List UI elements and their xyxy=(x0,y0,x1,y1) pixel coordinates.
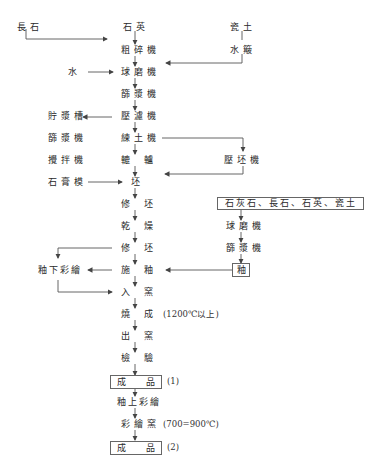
underglaze-painting: 釉下彩繪 xyxy=(38,265,82,276)
step-trim1-right: 坯 xyxy=(144,199,157,210)
input-feldspar: 長石 xyxy=(17,22,43,33)
product-2-tag: (2) xyxy=(167,442,179,453)
step-sieve: 篩漿機 xyxy=(121,89,160,100)
fire-temperature-note: (1200℃以上) xyxy=(163,309,219,320)
slurry-tank: 貯漿槽 xyxy=(48,111,87,122)
product-1-box: 成 品 xyxy=(110,375,162,389)
step-crusher: 粗碎機 xyxy=(121,45,160,56)
step-trim2-right: 坯 xyxy=(144,243,157,254)
step-dry-left: 乾 xyxy=(121,221,134,232)
flow-connectors xyxy=(0,0,382,474)
glaze-box: 釉 xyxy=(232,263,250,277)
sieve-machine-2: 篩漿機 xyxy=(48,133,87,144)
product-2-box: 成 品 xyxy=(110,441,162,455)
product-2-right: 品 xyxy=(146,443,155,454)
step-pug-mill: 練土機 xyxy=(121,133,160,144)
product-1-tag: (1) xyxy=(167,376,179,387)
product-2-left: 成 xyxy=(117,443,126,454)
step-kiln-in-right: 窯 xyxy=(144,287,157,298)
product-1-left: 成 xyxy=(117,377,126,388)
step-jigger-right: 轤 xyxy=(144,155,157,166)
step-inspect-left: 檢 xyxy=(121,353,134,364)
step-fire-left: 燒 xyxy=(121,309,134,320)
input-water: 水 xyxy=(68,67,81,78)
glaze-sieve: 篩漿機 xyxy=(226,243,265,254)
step-jigger-left: 轆 xyxy=(121,155,134,166)
step-trim1-left: 修 xyxy=(121,199,134,210)
step-kiln-out-right: 窯 xyxy=(144,331,157,342)
step-filter-press: 壓濾機 xyxy=(121,111,160,122)
step-kiln-out-left: 出 xyxy=(121,331,134,342)
input-clay: 瓷土 xyxy=(230,22,256,33)
glaze-label: 釉 xyxy=(237,265,246,276)
input-quartz: 石英 xyxy=(123,22,149,33)
step-dry-right: 燥 xyxy=(144,221,157,232)
step-trim2-left: 修 xyxy=(121,243,134,254)
step-fire-right: 成 xyxy=(144,309,157,320)
step-ball-mill: 球磨機 xyxy=(121,67,160,78)
step-glaze-right: 釉 xyxy=(144,265,157,276)
step-glaze-left: 施 xyxy=(121,265,134,276)
glaze-materials-box: 石灰石、長石、石英、瓷土 xyxy=(217,197,364,210)
step-body: 坯 xyxy=(131,177,144,188)
step-paint-kiln: 彩繪窯 xyxy=(121,419,160,430)
product-1-right: 品 xyxy=(146,377,155,388)
press-machine: 壓坯機 xyxy=(224,155,263,166)
plaster-mold: 石膏模 xyxy=(48,177,87,188)
elutriation: 水簸 xyxy=(230,45,256,56)
paint-kiln-temperature-note: (700=900℃) xyxy=(163,419,219,430)
glaze-ball-mill: 球磨機 xyxy=(226,221,265,232)
step-inspect-right: 驗 xyxy=(144,353,157,364)
step-kiln-in-left: 入 xyxy=(121,287,134,298)
glaze-materials: 石灰石、長石、石英、瓷土 xyxy=(225,198,357,209)
mixer: 攪拌機 xyxy=(48,155,87,166)
step-overglaze: 釉上彩繪 xyxy=(117,397,161,408)
